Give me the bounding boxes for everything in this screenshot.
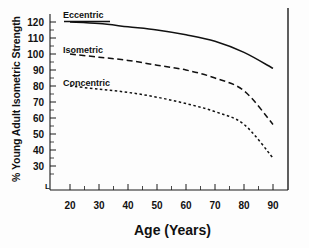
x-axis-minor-ticks xyxy=(85,186,259,190)
plot-area xyxy=(0,0,309,248)
series-line-concentric xyxy=(70,86,273,158)
chart-figure: % Young Adult Isometric Strength 120 110… xyxy=(0,0,309,248)
series-line-eccentric xyxy=(70,22,273,68)
